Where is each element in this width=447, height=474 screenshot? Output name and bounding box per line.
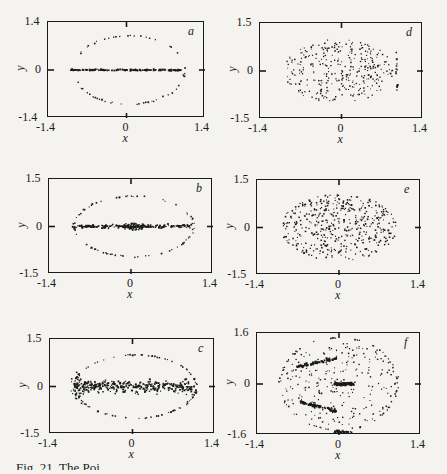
- x-tick-left: -1.4: [36, 121, 55, 133]
- panel-letter: c: [198, 341, 203, 356]
- x-axis-title: x: [335, 289, 340, 301]
- plot-frame: [256, 179, 420, 274]
- y-tick-bottom: -1.6: [227, 428, 246, 440]
- y-tick-bottom: -1.5: [230, 112, 249, 124]
- scatter-points: [260, 23, 423, 119]
- y-tick-top: 1.5: [25, 172, 40, 184]
- x-tick-right: 1.4: [194, 121, 209, 133]
- x-tick-right: 1.4: [204, 437, 219, 449]
- x-axis-title: x: [129, 448, 134, 460]
- x-tick-left: -1.4: [37, 277, 56, 289]
- y-tick-top: 1.5: [26, 332, 41, 344]
- scatter-points: [257, 333, 421, 435]
- panel-letter: f: [404, 335, 407, 350]
- scatter-points: [50, 339, 215, 434]
- y-axis-title: y: [14, 65, 26, 70]
- x-axis-title: x: [127, 288, 132, 300]
- y-axis-title: y: [223, 223, 235, 228]
- x-axis-title: x: [338, 133, 343, 145]
- y-axis-title: y: [16, 382, 28, 387]
- y-tick-bottom: -1.4: [18, 111, 37, 123]
- x-tick-left: -1.4: [248, 122, 267, 134]
- scatter-points: [48, 22, 205, 118]
- x-tick-left: -1.4: [38, 437, 57, 449]
- y-tick-mid: 0: [35, 63, 41, 75]
- y-tick-mid: 0: [37, 380, 43, 392]
- plot-frame: [259, 22, 422, 118]
- y-tick-top: 1.4: [24, 15, 39, 27]
- x-tick-left: -1.4: [245, 438, 264, 450]
- panel-letter: d: [406, 25, 412, 40]
- y-tick-bottom: -1.5: [20, 427, 39, 439]
- panel-letter: a: [188, 24, 194, 39]
- x-tick-right: 1.4: [202, 277, 217, 289]
- y-tick-mid: 0: [244, 221, 250, 233]
- panel-letter: e: [404, 182, 409, 197]
- plot-frame: [256, 332, 420, 434]
- x-tick-right: 1.4: [412, 122, 427, 134]
- scatter-points: [257, 180, 421, 275]
- plot-frame: [47, 21, 204, 117]
- y-tick-bottom: -1.5: [227, 268, 246, 280]
- y-axis-title: y: [226, 66, 238, 71]
- plot-frame: [49, 338, 214, 433]
- y-tick-top: 1.5: [236, 16, 251, 28]
- y-tick-mid: 0: [244, 377, 250, 389]
- x-tick-left: -1.4: [245, 278, 264, 290]
- plot-frame: [48, 178, 212, 273]
- x-tick-right: 1.4: [410, 438, 425, 450]
- scatter-points: [49, 179, 213, 274]
- y-tick-top: 1.5: [233, 173, 248, 185]
- y-axis-title: y: [15, 222, 27, 227]
- x-axis-title: x: [335, 449, 340, 461]
- y-tick-mid: 0: [247, 64, 253, 76]
- panel-letter: b: [196, 181, 202, 196]
- y-tick-mid: 0: [36, 220, 42, 232]
- x-tick-right: 1.4: [410, 278, 425, 290]
- y-tick-bottom: -1.5: [19, 267, 38, 279]
- y-axis-title: y: [223, 379, 235, 384]
- figure-caption: Fig. 21. The Poi: [16, 460, 100, 474]
- x-axis-title: x: [123, 132, 128, 144]
- y-tick-top: 1.6: [233, 326, 248, 338]
